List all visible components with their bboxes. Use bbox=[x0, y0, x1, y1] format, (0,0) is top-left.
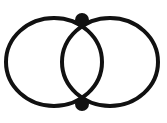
bottom-vertex-dot bbox=[75, 97, 89, 111]
two-circle-vertex-diagram bbox=[0, 0, 167, 123]
top-vertex-dot bbox=[75, 13, 89, 27]
figure-root bbox=[0, 0, 167, 123]
